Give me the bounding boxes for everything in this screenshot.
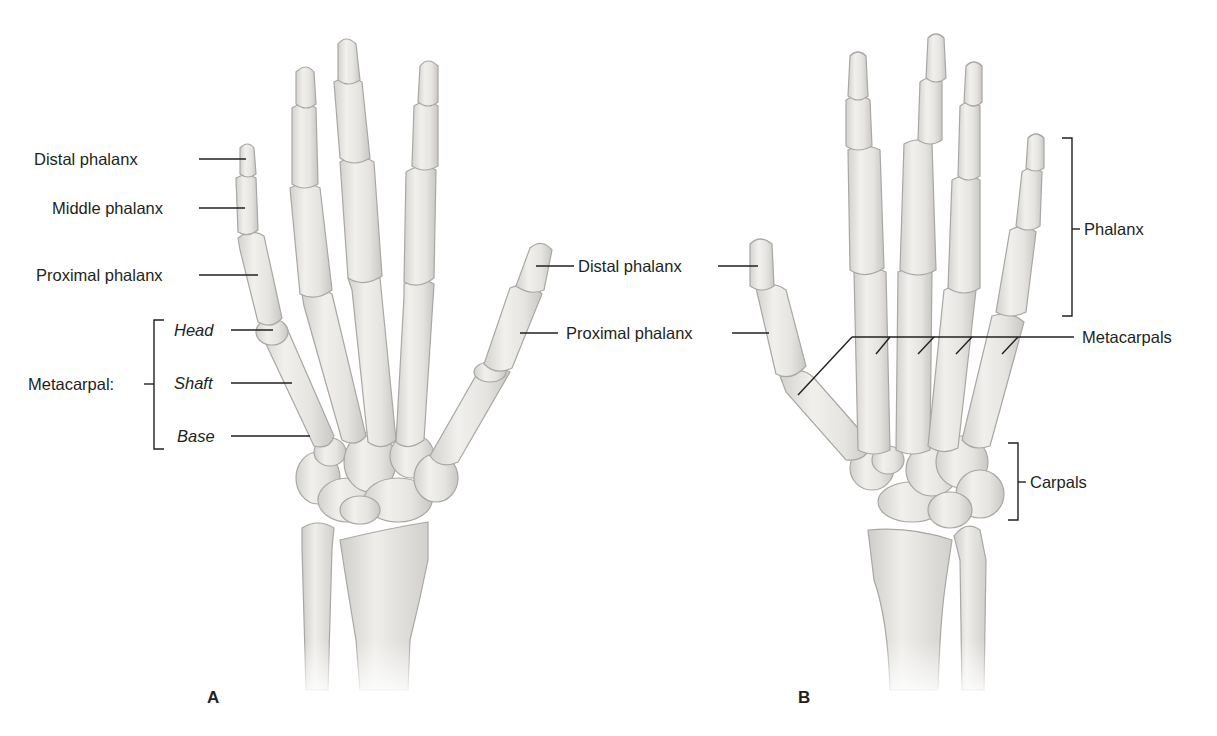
- label-proximal-phalanx-thumb-a: Proximal phalanx: [566, 323, 693, 343]
- fade-b: [850, 640, 1010, 700]
- hand-skeleton-figure: Distal phalanx Middle phalanx Proximal p…: [0, 0, 1217, 736]
- proximal-phalanx-3-a: [340, 157, 382, 283]
- metacarpal-2-a: [396, 280, 434, 447]
- metacarpal-3-b: [896, 268, 932, 454]
- panel-label-a: A: [207, 688, 219, 708]
- distal-phalanx-2-a: [418, 61, 438, 106]
- label-metacarpal-group-a: Metacarpal:: [28, 374, 114, 394]
- proximal-phalanx-4-b: [948, 176, 980, 293]
- label-phalanx-b: Phalanx: [1084, 219, 1144, 239]
- label-distal-phalanx-a: Distal phalanx: [34, 149, 138, 169]
- distal-phalanx-1-b: [750, 239, 774, 290]
- distal-phalanx-5-a: [240, 144, 256, 177]
- label-carpals-b: Carpals: [1030, 472, 1087, 492]
- distal-phalanx-3-b: [926, 34, 946, 82]
- proximal-phalanx-2-a: [404, 166, 436, 285]
- middle-phalanx-5-a: [236, 175, 258, 235]
- hand-a-bones: [236, 39, 552, 690]
- bone-illustration: [0, 0, 1217, 736]
- proximal-phalanx-4-a: [290, 184, 332, 297]
- label-middle-phalanx-a: Middle phalanx: [52, 198, 163, 218]
- label-metacarpals-b: Metacarpals: [1082, 327, 1172, 347]
- distal-phalanx-1-a: [516, 243, 552, 292]
- fade-a: [280, 640, 460, 700]
- middle-phalanx-4-b: [958, 102, 980, 180]
- label-base: Base: [177, 426, 215, 446]
- label-proximal-phalanx-a: Proximal phalanx: [36, 265, 163, 285]
- metacarpal-1-a: [430, 367, 510, 465]
- distal-phalanx-5-b: [1026, 134, 1044, 171]
- proximal-phalanx-2-b: [848, 146, 884, 275]
- panel-label-b: B: [798, 688, 810, 708]
- label-head: Head: [174, 320, 213, 340]
- hand-b-bones: [750, 34, 1044, 690]
- label-shaft: Shaft: [174, 373, 213, 393]
- proximal-phalanx-5-a: [238, 232, 282, 325]
- proximal-phalanx-5-b: [996, 226, 1036, 316]
- middle-phalanx-2-b: [846, 96, 872, 150]
- middle-phalanx-4-a: [292, 104, 318, 188]
- middle-phalanx-3-b: [918, 78, 942, 144]
- distal-phalanx-4-b: [964, 62, 982, 106]
- label-distal-phalanx-thumb-a: Distal phalanx: [578, 256, 682, 276]
- distal-phalanx-3-a: [338, 39, 360, 84]
- middle-phalanx-2-a: [412, 102, 438, 170]
- middle-phalanx-5-b: [1016, 168, 1042, 230]
- distal-phalanx-4-a: [296, 67, 316, 108]
- distal-phalanx-2-b: [848, 52, 868, 100]
- proximal-phalanx-1-b: [756, 284, 806, 376]
- proximal-phalanx-3-b: [900, 140, 936, 275]
- metacarpal-2-b: [854, 268, 890, 454]
- middle-phalanx-3-a: [334, 78, 370, 163]
- proximal-phalanx-1-a: [484, 285, 542, 371]
